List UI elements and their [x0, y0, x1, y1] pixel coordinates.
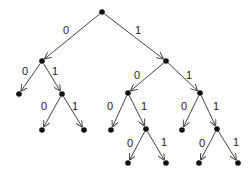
edge-label: 0 [41, 100, 47, 112]
tree-node [39, 58, 45, 64]
edge-label: 1 [213, 100, 219, 112]
tree-node [197, 90, 203, 96]
edge-label: 0 [63, 24, 69, 36]
edge-label: 0 [127, 137, 133, 149]
tree-node [125, 160, 131, 166]
edge-label: 1 [186, 69, 192, 81]
edge-label: 1 [135, 24, 141, 36]
tree-node [99, 9, 105, 15]
tree-node [16, 91, 22, 97]
tree-node [163, 160, 169, 166]
tree-node [143, 126, 149, 132]
edge-label: 1 [72, 100, 78, 112]
edge-label: 1 [233, 136, 239, 148]
binary-tree-diagram: 0101010101010101 [0, 0, 251, 176]
tree-node [235, 160, 241, 166]
tree-node [163, 58, 169, 64]
edge-labels: 0101010101010101 [22, 24, 239, 149]
edge-label: 0 [107, 100, 113, 112]
tree-node [108, 127, 114, 133]
edge-label: 0 [199, 137, 205, 149]
edge-arrow [113, 96, 127, 127]
tree-node [196, 160, 202, 166]
edge-label: 1 [161, 136, 167, 148]
edge-arrow [168, 63, 197, 90]
tree-node [179, 127, 185, 133]
edge-label: 1 [141, 100, 147, 112]
edge-label: 0 [181, 100, 187, 112]
edge-label: 0 [22, 65, 28, 77]
tree-node [125, 90, 131, 96]
edge-arrow [104, 14, 163, 59]
edge-label: 0 [134, 69, 140, 81]
edge-label: 1 [52, 65, 58, 77]
tree-node [39, 127, 45, 133]
edge-arrow [45, 14, 100, 59]
tree-node [59, 91, 65, 97]
tree-node [81, 127, 87, 133]
tree-node [214, 126, 220, 132]
